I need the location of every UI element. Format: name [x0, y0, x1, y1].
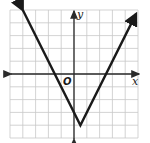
origin-label: O — [63, 76, 72, 87]
x-axis-label: x — [132, 75, 139, 88]
y-axis-label: y — [76, 8, 84, 21]
coordinate-plane: x y O — [0, 0, 150, 143]
absolute-value-graph — [23, 10, 136, 125]
